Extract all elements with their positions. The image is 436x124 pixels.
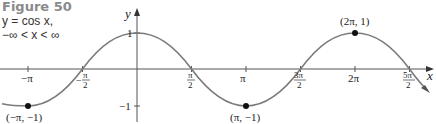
y-axis-label: y	[123, 6, 131, 21]
x-axis-label: x	[426, 68, 433, 83]
svg-text:π: π	[188, 70, 193, 80]
x-tick-three-half-pi: 3π 2	[294, 70, 306, 90]
svg-text:2: 2	[297, 80, 302, 90]
point-label-pi: (π, −1)	[230, 111, 260, 124]
svg-text:2: 2	[83, 80, 88, 90]
svg-text:−: −	[76, 75, 82, 86]
point-neg-pi	[25, 103, 31, 109]
point-label-neg-pi: (−π, −1)	[6, 111, 43, 124]
x-tick-neg-pi: −π	[21, 72, 33, 84]
svg-text:2: 2	[406, 80, 411, 90]
y-axis-arrow-icon	[134, 8, 140, 16]
point-label-2pi: (2π, 1)	[340, 15, 370, 28]
svg-text:5π: 5π	[403, 70, 413, 80]
x-tick-neg-half-pi: − π 2	[76, 70, 90, 90]
y-tick-neg-1: −1	[119, 100, 131, 112]
y-tick-1: 1	[127, 27, 133, 39]
cosine-chart: y x 1 −1 −π π 2π − π 2 π 2 3π 2 5π 2 (−π…	[0, 0, 436, 124]
svg-text:π: π	[83, 70, 88, 80]
x-tick-pi: π	[240, 72, 246, 84]
svg-text:2: 2	[188, 80, 193, 90]
x-tick-2pi: 2π	[348, 72, 360, 84]
point-pi	[243, 103, 249, 109]
svg-text:3π: 3π	[294, 70, 304, 80]
point-2pi	[352, 30, 358, 36]
